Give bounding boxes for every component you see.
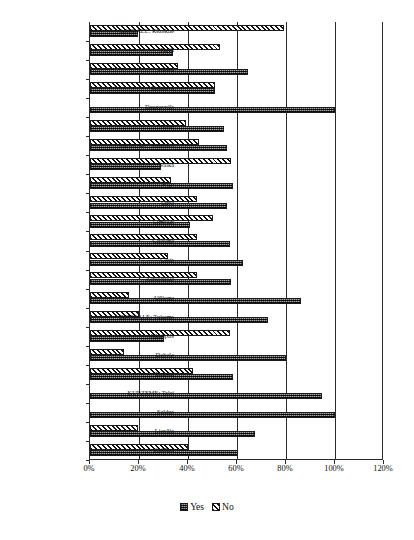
y-tick-label: Aizkraukle [0,275,174,282]
y-tick-label: Balvi [0,123,174,130]
y-tick-label: Alūksne [0,294,174,301]
x-tick-label: 120% [363,464,403,473]
y-tick-mark [86,212,89,213]
y-tick-mark [86,98,89,99]
legend-swatch-no-icon [212,503,220,511]
y-tick-label: Preiļi [0,46,174,53]
x-tick-mark [89,460,90,464]
y-tick-mark [86,441,89,442]
x-tick-mark [334,460,335,464]
y-tick-label: Saldus [0,408,174,415]
y-tick-label: Bauska [0,370,174,377]
y-tick-mark [86,403,89,404]
x-tick-label: 80% [265,464,305,473]
y-tick-mark [86,117,89,118]
y-tick-label: Kuldīga [0,446,174,453]
y-tick-label: Daugavpils [0,103,174,110]
y-tick-label: Jēkabpils [0,332,174,339]
y-tick-mark [86,346,89,347]
chart-figure: LATGALE: RēzeknePreiļiLudzaKrāslavaDaug… [0,0,414,540]
y-tick-mark [86,41,89,42]
y-tick-label: VIDZEME: Valmiera [0,142,174,149]
y-tick-label: Ludza [0,65,174,72]
y-tick-mark [86,174,89,175]
y-tick-label: Gulbene [0,237,174,244]
y-tick-mark [86,422,89,423]
y-tick-mark [86,384,89,385]
x-tick-label: 40% [167,464,207,473]
chart-legend: Yes No [0,500,414,512]
y-tick-label: Krāslava [0,84,174,91]
x-tick-mark [187,460,188,464]
y-tick-label: KURZEME: Talsi [0,389,174,396]
y-tick-label: Limbaži [0,218,174,225]
y-tick-mark [86,327,89,328]
y-tick-mark [86,155,89,156]
y-tick-mark [86,79,89,80]
y-tick-label: ZEMGALE: Tukums [0,313,174,320]
x-tick-mark [383,460,384,464]
legend-label-no: No [222,501,234,512]
y-tick-mark [86,60,89,61]
y-tick-label: Rīga [0,180,174,187]
y-tick-label: Cēsis [0,256,174,263]
x-tick-mark [138,460,139,464]
y-tick-label: LATGALE: Rēzekne [0,27,174,34]
y-tick-mark [86,251,89,252]
y-tick-label: Valka [0,161,174,168]
x-tick-label: 20% [118,464,158,473]
y-tick-mark [86,289,89,290]
legend-label-yes: Yes [190,501,204,512]
x-tick-label: 0% [69,464,109,473]
y-tick-mark [86,308,89,309]
legend-swatch-yes-icon [180,503,188,511]
y-tick-label: Ogre [0,199,174,206]
y-tick-label: Dobele [0,351,174,358]
legend-entry-yes: Yes [180,501,204,512]
legend-entry-no: No [212,501,234,512]
x-tick-mark [236,460,237,464]
y-tick-label: Liepāja [0,427,174,434]
x-tick-label: 60% [216,464,256,473]
x-tick-label: 100% [314,464,354,473]
y-tick-mark [86,231,89,232]
y-tick-mark [86,193,89,194]
y-tick-mark [86,365,89,366]
y-tick-mark [86,270,89,271]
y-tick-mark [86,136,89,137]
x-tick-mark [285,460,286,464]
